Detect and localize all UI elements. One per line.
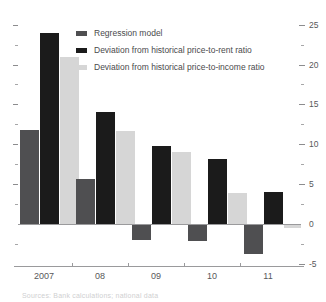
right-axis-label-25: 25 [309,21,318,30]
left-axis-tick-17p5 [15,84,18,85]
right-axis-tick-10 [299,144,305,145]
bar-08-price-to-income [116,131,135,224]
right-axis-label-10: 10 [309,140,318,149]
bar-09-regression [132,225,151,240]
legend-label-regression-model: Regression model [94,29,163,38]
left-axis-tick-22p5 [15,45,18,46]
bar-08-regression [76,179,95,224]
housing-valuation-bar-chart: 25 20 15 10 5 0 -5 2007 [0,0,326,302]
right-axis-tick-7p5 [301,164,304,165]
legend-item-price-to-income: Deviation from historical price-to-incom… [76,60,265,75]
right-axis-tick-2p5 [301,204,304,205]
chart-legend: Regression model Deviation from historic… [76,26,265,77]
right-axis-label-5: 5 [309,180,314,189]
x-axis-tick-3 [240,263,241,267]
right-axis-tick-17p5 [301,84,304,85]
right-axis-tick-5 [299,184,305,185]
left-axis-tick-25 [13,25,18,26]
right-axis-tick-neg5 [299,264,305,265]
bar-11-price-to-income [284,225,301,228]
right-axis-tick-25 [299,25,305,26]
right-axis-tick-neg2p5 [301,244,304,245]
x-axis-tick-1 [128,263,129,267]
bar-08-price-to-rent [96,112,115,224]
bar-2007-price-to-rent [40,33,59,224]
right-axis-label-20: 20 [309,61,318,70]
left-axis-tick-neg2p5 [15,244,18,245]
bar-09-price-to-rent [152,146,171,224]
bar-11-regression [244,225,263,254]
legend-item-price-to-rent: Deviation from historical price-to-rent … [76,43,265,58]
right-axis-tick-12p5 [301,124,304,125]
right-axis-tick-15 [299,104,305,105]
legend-label-price-to-rent: Deviation from historical price-to-rent … [94,46,252,55]
legend-item-regression-model: Regression model [76,26,265,41]
x-axis-label-2007: 2007 [34,272,54,281]
legend-label-price-to-income: Deviation from historical price-to-incom… [94,63,265,72]
left-axis-tick-15 [13,104,18,105]
legend-swatch-icon-price-to-rent [76,48,87,53]
left-axis-tick-2p5 [15,204,18,205]
left-axis-tick-12p5 [15,124,18,125]
bar-10-price-to-rent [208,159,227,224]
x-axis-label-08: 08 [95,272,105,281]
right-axis-tick-20 [299,65,305,66]
right-axis-label-0: 0 [309,220,314,229]
right-axis-label-15: 15 [309,100,318,109]
chart-footnote: Sources: Bank calculations; national dat… [22,292,158,299]
x-axis-label-11: 11 [263,272,272,281]
left-axis-tick-7p5 [15,164,18,165]
x-axis-label-09: 09 [151,272,161,281]
bar-10-regression [188,225,207,241]
x-axis-line [14,266,304,267]
legend-swatch-icon-price-to-income [76,65,87,70]
bar-09-price-to-income [172,152,191,224]
right-axis-label-neg5: -5 [309,260,317,269]
x-axis-label-10: 10 [207,272,217,281]
zero-baseline [18,224,301,225]
left-axis-tick-10 [13,144,18,145]
right-axis-tick-22p5 [301,45,304,46]
legend-swatch-icon-regression-model [76,31,87,36]
left-axis-tick-5 [13,184,18,185]
left-axis-tick-20 [13,65,18,66]
x-axis-tick-2 [184,263,185,267]
bar-2007-regression [20,130,39,224]
bar-11-price-to-rent [264,192,283,224]
bar-10-price-to-income [228,193,247,224]
x-axis-tick-0 [72,263,73,267]
